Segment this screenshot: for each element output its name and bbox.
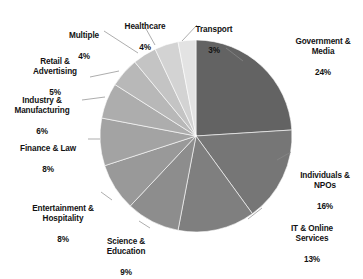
label-government-media-name: Government & Media [284, 37, 362, 58]
label-multiple-percent: 4% [58, 52, 110, 63]
label-multiple-name: Multiple [58, 31, 110, 42]
label-industry-manufacturing-percent: 6% [2, 127, 82, 138]
label-finance-law-percent: 8% [8, 165, 88, 176]
label-transport-percent: 3% [185, 46, 243, 57]
label-healthcare-name: Healthcare [116, 22, 174, 33]
label-science-education-percent: 9% [95, 268, 157, 279]
label-entertainment-hospitality-name: Entertainment & Hospitality [15, 204, 111, 225]
label-entertainment-hospitality: Entertainment & Hospitality 8% [15, 193, 111, 256]
label-government-media: Government & Media 24% [284, 26, 362, 89]
label-healthcare-percent: 4% [116, 43, 174, 54]
label-retail-advertising-percent: 5% [20, 88, 90, 99]
label-individuals-npos-percent: 16% [288, 202, 362, 213]
label-it-online-services-percent: 13% [272, 255, 352, 266]
label-transport: Transport 3% [185, 14, 243, 67]
label-it-online-services: IT & Online Services 13% [272, 213, 352, 276]
label-multiple: Multiple 4% [58, 20, 110, 73]
label-individuals-npos-name: Individuals & NPOs [288, 171, 362, 192]
label-government-media-percent: 24% [284, 68, 362, 79]
label-it-online-services-name: IT & Online Services [272, 224, 352, 245]
label-healthcare: Healthcare 4% [116, 11, 174, 64]
pie-slice-group [100, 40, 292, 232]
label-transport-name: Transport [185, 25, 243, 36]
label-entertainment-hospitality-percent: 8% [15, 235, 111, 246]
